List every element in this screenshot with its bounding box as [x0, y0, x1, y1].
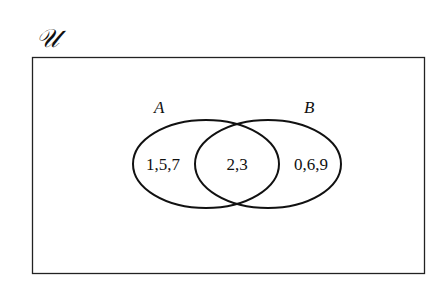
intersection-elements: 2,3: [226, 155, 247, 174]
set-b-only-elements: 0,6,9: [294, 155, 328, 174]
set-a-only-elements: 1,5,7: [146, 155, 181, 174]
set-b-label: B: [304, 98, 315, 117]
universe-label: 𝒰: [36, 24, 67, 53]
venn-diagram: 𝒰 A B 1,5,7 2,3 0,6,9: [0, 0, 447, 292]
set-a-label: A: [153, 98, 165, 117]
